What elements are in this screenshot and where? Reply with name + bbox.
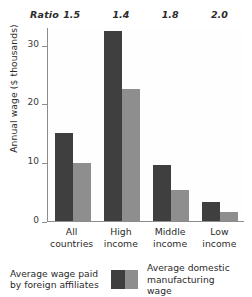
x-axis-labels: AllcountriesHighincomeMiddleincomeLowinc… <box>47 226 244 249</box>
y-axis-tick-label: 30 <box>28 39 39 49</box>
y-axis-tick-line <box>42 163 47 164</box>
bar-group <box>197 28 243 221</box>
plot-area <box>47 28 244 222</box>
x-axis-label: Middleincome <box>147 226 193 249</box>
chart-legend: Average wage paid by foreign affiliates … <box>0 262 252 297</box>
y-axis-tick: 0 <box>0 222 47 223</box>
y-axis-tick-label: 0 <box>33 215 39 225</box>
legend-swatch <box>111 270 138 289</box>
bar <box>220 212 238 221</box>
chart-figure: Ratio 1.51.41.82.0 0102030 Annual wage (… <box>0 0 252 297</box>
legend-label-foreign-affiliates-line2: by foreign affiliates <box>10 279 102 291</box>
bar <box>104 31 122 221</box>
y-axis-tick-line <box>42 46 47 47</box>
y-axis-title: Annual wage ($ thousands) <box>8 4 19 174</box>
legend-label-domestic-wage-line2: manufacturing wage <box>147 274 242 297</box>
x-axis-label-line: Middle <box>147 226 193 238</box>
ratio-value: 1.5 <box>52 9 92 20</box>
bar <box>153 165 171 221</box>
x-axis-label: Allcountries <box>49 226 95 249</box>
legend-swatch-dark <box>111 270 125 289</box>
bar-group <box>148 28 194 221</box>
y-axis-tick-label: 20 <box>28 97 39 107</box>
ratio-value: 2.0 <box>199 9 239 20</box>
bar <box>171 190 189 221</box>
x-axis-label-line: income <box>147 238 193 250</box>
bar <box>73 163 91 221</box>
legend-label-foreign-affiliates-line1: Average wage paid <box>10 268 102 280</box>
ratio-value: 1.4 <box>101 9 141 20</box>
legend-label-foreign-affiliates: Average wage paid by foreign affiliates <box>10 268 102 291</box>
legend-swatch-light <box>125 270 139 289</box>
x-axis-label-line: All <box>49 226 95 238</box>
bar <box>202 202 220 221</box>
y-axis-tick-line <box>42 222 47 223</box>
y-axis-tick-line <box>42 104 47 105</box>
ratio-value: 1.8 <box>150 9 190 20</box>
x-axis-label-line: High <box>98 226 144 238</box>
bar-group <box>99 28 145 221</box>
x-axis-label-line: income <box>196 238 242 250</box>
bar-series-container <box>48 28 244 221</box>
x-axis-label: Lowincome <box>196 226 242 249</box>
legend-label-domestic-wage: Average domestic manufacturing wage <box>147 262 242 297</box>
legend-label-domestic-wage-line1: Average domestic <box>147 262 242 274</box>
bar <box>55 133 73 221</box>
x-axis-label-line: countries <box>49 238 95 250</box>
bar <box>122 89 140 221</box>
ratio-row: Ratio 1.51.41.82.0 <box>0 9 252 25</box>
x-axis-label-line: Low <box>196 226 242 238</box>
y-axis-tick-label: 10 <box>28 156 39 166</box>
x-axis-label: Highincome <box>98 226 144 249</box>
bar-group <box>50 28 96 221</box>
x-axis-label-line: income <box>98 238 144 250</box>
